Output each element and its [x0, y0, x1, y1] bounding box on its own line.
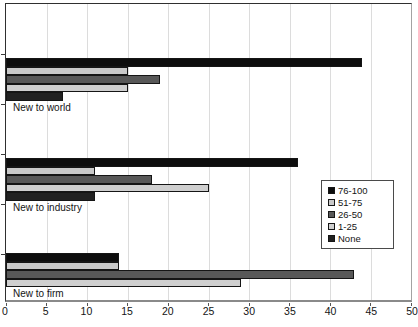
x-axis-label: 40 — [325, 305, 337, 317]
legend-label: 1-25 — [338, 221, 357, 232]
legend-item: 76-100 — [328, 184, 393, 196]
x-axis-label: 45 — [365, 305, 377, 317]
bar-76-100 — [6, 58, 362, 67]
bar-1-25 — [6, 279, 241, 288]
legend-item: 1-25 — [328, 221, 393, 233]
bar-51-75 — [6, 262, 119, 271]
legend-swatch-icon — [328, 199, 335, 206]
bar-51-75 — [6, 67, 128, 76]
legend-item: 26-50 — [328, 208, 393, 220]
bar-none — [6, 192, 95, 201]
x-axis-label: 15 — [121, 305, 133, 317]
bar-none — [6, 92, 63, 101]
x-axis-labels: 05101520253035404550 — [5, 305, 412, 319]
x-axis-label: 25 — [203, 305, 215, 317]
x-axis-label: 35 — [284, 305, 296, 317]
plot-area: New to worldNew to industryNew to firm — [5, 3, 412, 302]
bar-51-75 — [6, 167, 95, 176]
bar-1-25 — [6, 84, 128, 93]
x-axis-label: 5 — [43, 305, 49, 317]
x-axis-label: 10 — [81, 305, 93, 317]
x-axis-label: 50 — [406, 305, 418, 317]
bar-group: New to world — [6, 4, 411, 104]
legend-swatch-icon — [328, 223, 335, 230]
legend-swatch-icon — [328, 211, 335, 218]
bar-76-100 — [6, 158, 298, 167]
bar-76-100 — [6, 253, 119, 262]
legend-swatch-icon — [328, 187, 335, 194]
legend-label: 26-50 — [338, 209, 362, 220]
bar-26-50 — [6, 75, 160, 84]
bar-26-50 — [6, 270, 354, 279]
legend-item: 51-75 — [328, 196, 393, 208]
bar-26-50 — [6, 175, 152, 184]
bar-1-25 — [6, 184, 209, 193]
legend-label: 51-75 — [338, 197, 362, 208]
legend-label: 76-100 — [338, 185, 368, 196]
x-axis-label: 20 — [162, 305, 174, 317]
chart-container: New to worldNew to industryNew to firm 0… — [0, 0, 418, 327]
x-axis-label: 0 — [2, 305, 8, 317]
legend: 76-10051-7526-501-25None — [321, 180, 394, 249]
legend-item: None — [328, 233, 393, 245]
x-axis-label: 30 — [243, 305, 255, 317]
legend-label: None — [338, 233, 361, 244]
category-label: New to firm — [13, 288, 64, 299]
legend-swatch-icon — [328, 235, 335, 242]
